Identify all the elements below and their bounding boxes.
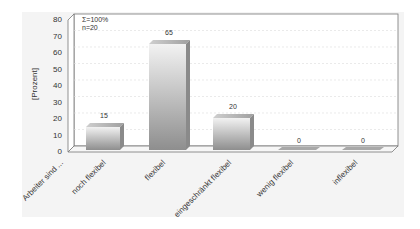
y-tick: 20: [40, 114, 62, 123]
n-annotation: n=20: [82, 24, 108, 32]
value-label: 15: [84, 112, 124, 119]
y-tick: 40: [40, 81, 62, 90]
bar-noch-flexibel: [86, 123, 124, 150]
y-tick: 70: [40, 32, 62, 41]
value-label: 65: [149, 29, 189, 36]
y-tick: 60: [40, 48, 62, 57]
y-tick: 0: [40, 147, 62, 156]
bar-wenig-flexibel: [278, 147, 320, 150]
y-tick: 30: [40, 98, 62, 107]
bar-inflexibel: [342, 147, 384, 150]
sum-annotation: Σ=100%: [82, 16, 108, 24]
bar-flexibel: [149, 40, 190, 150]
y-tick: 50: [40, 65, 62, 74]
value-label: 0: [279, 137, 319, 144]
chart-annotation: Σ=100% n=20: [82, 16, 108, 32]
plot-area: [0, 0, 420, 229]
y-tick: 80: [40, 15, 62, 24]
y-tick: 10: [40, 131, 62, 140]
value-label: 20: [213, 103, 253, 110]
value-label: 0: [343, 137, 383, 144]
bar-eingeschraenkt-flexibel: [213, 114, 254, 150]
